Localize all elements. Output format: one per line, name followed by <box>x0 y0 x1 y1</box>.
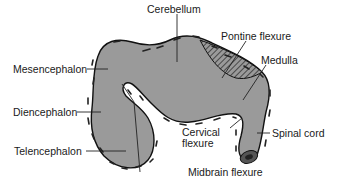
label-cervical-flexure-line2: flexure <box>182 138 214 149</box>
label-mesencephalon: Mesencephalon <box>13 64 87 75</box>
label-medulla: Medulla <box>261 55 298 66</box>
label-spinal-cord: Spinal cord <box>272 128 325 139</box>
label-pontine-flexure: Pontine flexure <box>221 31 291 42</box>
brain-shape <box>0 0 342 187</box>
label-midbrain-flexure: Midbrain flexure <box>188 167 263 178</box>
brain-flexure-diagram: Cerebellum Pontine flexure Medulla Mesen… <box>0 0 342 187</box>
label-cerebellum: Cerebellum <box>147 4 201 15</box>
neural-tube-body <box>91 36 269 168</box>
label-telencephalon: Telencephalon <box>14 146 82 157</box>
label-diencephalon: Diencephalon <box>13 107 77 118</box>
